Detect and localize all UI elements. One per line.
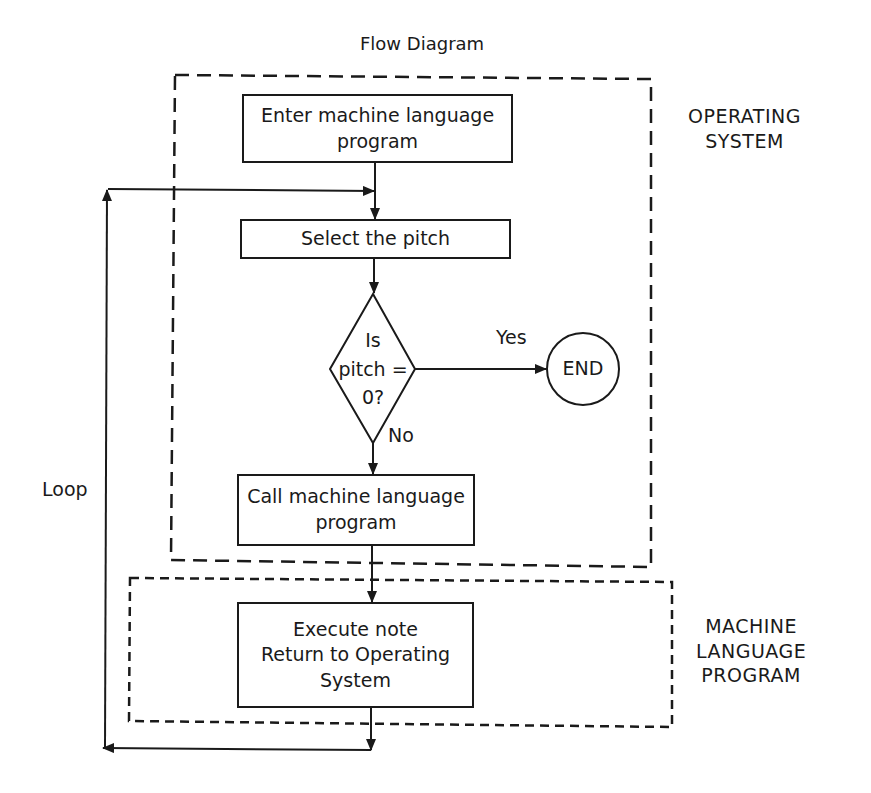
enter-program-text: Enter machine language program: [243, 95, 512, 162]
enter-program-line1: Enter machine language: [261, 103, 494, 129]
call-program-line2: program: [315, 510, 396, 536]
yes-label: Yes: [496, 326, 527, 348]
decision-line2: pitch =: [338, 355, 407, 384]
machine-language-label: MACHINE LANGUAGE PROGRAM: [696, 614, 806, 688]
call-program-line1: Call machine language: [247, 484, 465, 510]
operating-system-label-line1: OPERATING: [688, 104, 801, 129]
end-text: END: [547, 333, 619, 405]
loop-label: Loop: [42, 478, 88, 500]
operating-system-label-line2: SYSTEM: [688, 129, 801, 154]
machine-language-label-line2: LANGUAGE: [696, 639, 806, 664]
select-pitch-text: Select the pitch: [241, 220, 510, 258]
select-pitch-line1: Select the pitch: [301, 226, 450, 252]
call-program-text: Call machine language program: [238, 475, 474, 545]
operating-system-label: OPERATING SYSTEM: [688, 104, 801, 153]
no-label: No: [388, 424, 414, 446]
decision-line1: Is: [365, 326, 381, 355]
execute-note-text: Execute note Return to Operating System: [238, 603, 473, 707]
machine-language-label-line1: MACHINE: [696, 614, 806, 639]
execute-note-line2: Return to Operating: [261, 642, 450, 668]
execute-note-line3: System: [320, 668, 391, 694]
execute-note-line1: Execute note: [293, 617, 418, 643]
decision-line3: 0?: [362, 383, 384, 412]
decision-text: Is pitch = 0?: [318, 322, 428, 416]
edge-loop-bottom: [103, 748, 371, 750]
enter-program-line2: program: [337, 129, 418, 155]
end-line1: END: [563, 356, 604, 382]
diagram-title: Flow Diagram: [360, 33, 484, 54]
machine-language-label-line3: PROGRAM: [696, 663, 806, 688]
edge-loop-top: [108, 189, 374, 191]
edge-loop-left: [105, 190, 107, 748]
